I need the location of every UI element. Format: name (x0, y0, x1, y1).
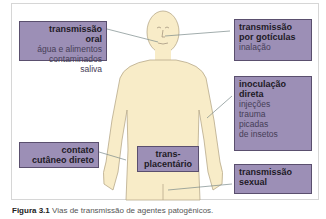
label-title: inoculação (239, 79, 307, 89)
label-title: transmissão (239, 167, 307, 177)
label-title: por gotículas (239, 32, 307, 42)
label-title: transmissão (24, 24, 102, 34)
label-detail: contaminados (24, 54, 102, 64)
figure-caption: Figura 3.1 Vias de transmissão de agente… (12, 206, 213, 215)
label-title: trans- (142, 149, 194, 159)
label-detail: injeções (239, 99, 307, 109)
label-detail: trauma (239, 109, 307, 119)
label-title: direta (239, 89, 307, 99)
label-droplet-transmission: transmissão por gotículas inalação (234, 19, 312, 61)
label-title: contato (24, 145, 94, 155)
label-title: oral (24, 34, 102, 44)
label-title: transmissão (239, 22, 307, 32)
caption-text: Vias de transmissão de agentes patogênic… (52, 206, 213, 215)
label-oral-transmission: transmissão oral água e alimentos contam… (19, 21, 107, 61)
label-title: sexual (239, 177, 307, 187)
label-title: placentário (142, 159, 194, 169)
label-skin-contact: contato cutâneo direto (19, 142, 99, 168)
label-detail: água e alimentos (24, 44, 102, 54)
label-detail: picadas (239, 119, 307, 129)
label-title: cutâneo direto (24, 155, 94, 165)
label-detail: de insetos (239, 129, 307, 139)
label-detail: inalação (239, 42, 307, 52)
label-direct-inoculation: inoculação direta injeções trauma picada… (234, 76, 312, 151)
label-detail: saliva (24, 64, 102, 74)
label-sexual-transmission: transmissão sexual (234, 164, 312, 194)
label-transplacental: trans- placentário (137, 146, 199, 172)
caption-label: Figura 3.1 (12, 206, 50, 215)
